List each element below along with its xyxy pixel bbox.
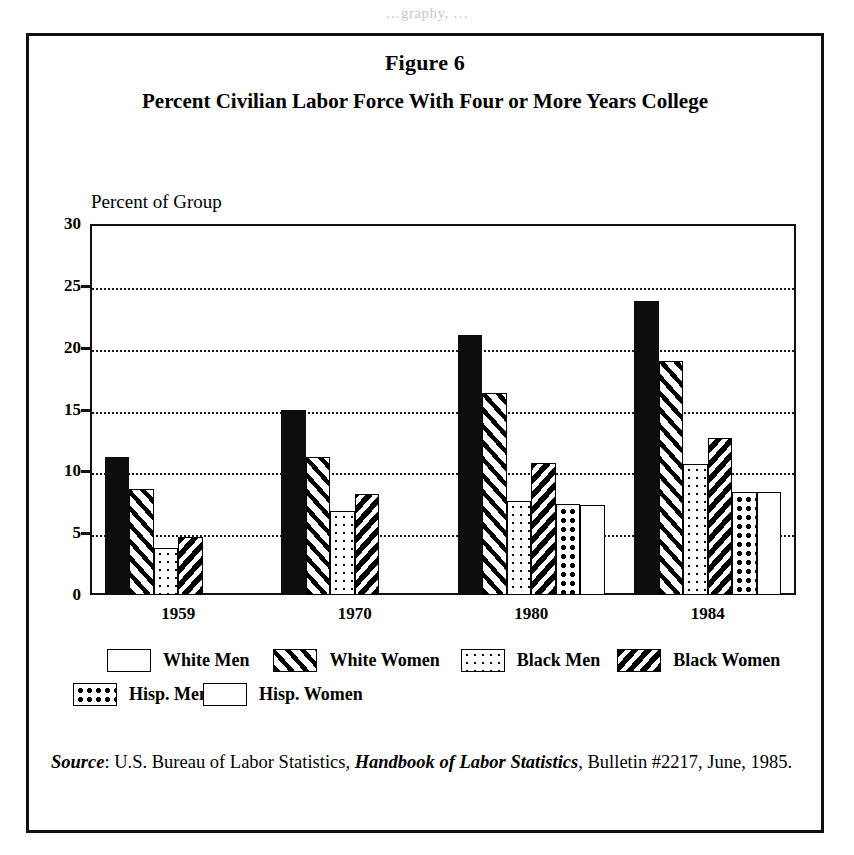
legend-item-black-men[interactable]: Black Men — [461, 649, 601, 672]
bar-black-men-1970 — [330, 511, 355, 595]
bar-white-men-1959 — [105, 457, 130, 596]
y-tick-label-25: 25 — [47, 276, 81, 296]
bar-hisp-men-1984 — [732, 492, 757, 595]
bar-hisp-women-1984 — [757, 492, 782, 595]
x-tick-label-1980: 1980 — [514, 604, 548, 624]
figure-frame: Figure 6 Percent Civilian Labor Force Wi… — [26, 33, 824, 833]
y-tick-label-15: 15 — [47, 400, 81, 420]
y-tick-label-30: 30 — [47, 214, 81, 234]
bar-white-men-1984 — [634, 301, 659, 595]
y-tick-label-20: 20 — [47, 338, 81, 358]
source-label: Source — [51, 752, 104, 772]
bars-layer — [90, 224, 796, 595]
bar-hisp-men-1980 — [556, 504, 581, 596]
legend-label: Hisp. Men — [129, 684, 209, 705]
legend-item-hisp-women[interactable]: Hisp. Women — [203, 683, 363, 706]
legend-swatch-dots-bold-icon — [73, 683, 117, 706]
source-note: Source: U.S. Bureau of Labor Statistics,… — [51, 750, 807, 775]
bar-white-women-1980 — [482, 393, 507, 595]
bar-black-women-1970 — [355, 494, 380, 595]
legend-swatch-diag-wide-icon — [273, 649, 317, 672]
legend-swatch-empty-icon — [203, 683, 247, 706]
legend-label: Hisp. Women — [259, 684, 363, 705]
legend-row-1: White MenWhite WomenBlack MenBlack Women — [29, 649, 821, 672]
legend-item-white-men[interactable]: White Men — [107, 649, 249, 672]
bar-white-women-1970 — [306, 457, 331, 596]
source-rest: , Bulletin #2217, June, 1985. — [578, 752, 792, 772]
bar-white-women-1959 — [129, 489, 154, 595]
bar-black-men-1980 — [507, 501, 532, 595]
x-tick-label-1984: 1984 — [691, 604, 725, 624]
source-publication: Handbook of Labor Statistics — [355, 752, 579, 772]
bar-black-men-1959 — [154, 548, 179, 595]
x-tick-label-1970: 1970 — [338, 604, 372, 624]
page-bleed-text: …graphy, … — [0, 0, 854, 26]
figure-number: Figure 6 — [29, 50, 821, 76]
legend-swatch-dots-light-icon — [461, 649, 505, 672]
bar-black-men-1984 — [683, 464, 708, 595]
y-tick-label-5: 5 — [47, 523, 81, 543]
bar-black-women-1980 — [531, 463, 556, 595]
bar-hisp-women-1980 — [580, 505, 605, 595]
figure-title: Percent Civilian Labor Force With Four o… — [95, 88, 755, 114]
source-agency: U.S. Bureau of Labor Statistics, — [114, 752, 354, 772]
figure-titles: Figure 6 Percent Civilian Labor Force Wi… — [29, 36, 821, 114]
legend-swatch-diag-dense-icon — [617, 649, 661, 672]
figure-page: …graphy, … Figure 6 Percent Civilian Lab… — [0, 0, 854, 855]
legend-item-hisp-men[interactable]: Hisp. Men — [73, 683, 209, 706]
legend-swatch-solid-icon — [107, 649, 151, 672]
y-axis-caption: Percent of Group — [91, 191, 222, 213]
legend-label: Black Women — [673, 650, 780, 671]
bar-white-men-1970 — [281, 410, 306, 596]
bar-black-women-1959 — [178, 537, 203, 595]
chart-legend: White MenWhite WomenBlack MenBlack Women… — [29, 649, 821, 717]
legend-row-2: Hisp. MenHisp. Women — [29, 683, 821, 706]
source-colon: : — [104, 752, 114, 772]
bar-black-women-1984 — [708, 438, 733, 595]
bar-white-men-1980 — [458, 335, 483, 595]
legend-item-black-women[interactable]: Black Women — [617, 649, 780, 672]
legend-label: White Women — [329, 650, 439, 671]
y-tick-label-10: 10 — [47, 461, 81, 481]
x-tick-label-1959: 1959 — [161, 604, 195, 624]
bar-white-women-1984 — [659, 361, 684, 595]
plot-area: 051015202530 1959197019801984 — [29, 222, 821, 632]
y-tick-label-0: 0 — [47, 585, 81, 605]
legend-label: Black Men — [517, 650, 601, 671]
legend-label: White Men — [163, 650, 249, 671]
legend-item-white-women[interactable]: White Women — [273, 649, 439, 672]
